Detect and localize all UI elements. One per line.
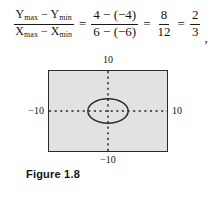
twelve-denominator: 12 [156, 25, 173, 40]
trailing-comma: , [204, 30, 207, 48]
equation-denominator-x-range: Xmax − Xmin [13, 25, 74, 40]
equation-term-substituted-values: 4 − (−4) 6 − (−6) [91, 8, 138, 39]
three-denominator: 3 [190, 25, 201, 40]
graphing-calculator-viewport [48, 70, 168, 152]
figure-1-8: 10 −10 10 −10 Figure 1.8 [0, 52, 221, 199]
x-min-subscript: min [59, 30, 72, 39]
axis-label-x-max: 10 [172, 106, 182, 116]
equation-term-eight-twelfths: 8 12 [156, 8, 173, 39]
equation-term-two-thirds: 2 3 [190, 8, 201, 39]
y-min-subscript: min [59, 13, 72, 22]
axis-label-y-min: −10 [48, 155, 168, 165]
denominator-minus-sign: − [41, 24, 48, 38]
substituted-denominator: 6 − (−6) [91, 25, 138, 40]
plot-svg [49, 71, 167, 151]
axis-label-y-max: 10 [48, 55, 168, 65]
numerator-minus-sign: − [41, 7, 48, 21]
equation-expression: Ymax − Ymin Xmax − Xmin = 4 − (−4) 6 − (… [0, 0, 221, 48]
y-max-variable: Y [16, 7, 25, 21]
equals-sign-3: = [177, 16, 186, 32]
equals-sign-2: = [142, 16, 151, 32]
y-min-variable: Y [51, 7, 60, 21]
equation-numerator-y-range: Ymax − Ymin [14, 8, 74, 24]
eight-numerator: 8 [159, 8, 170, 24]
x-max-variable: X [15, 24, 24, 38]
substituted-numerator: 4 − (−4) [91, 8, 138, 24]
axis-label-x-min: −10 [14, 106, 44, 116]
equation-term-ratio-definition: Ymax − Ymin Xmax − Xmin [13, 8, 74, 39]
figure-caption: Figure 1.8 [26, 168, 80, 180]
equals-sign-1: = [78, 16, 87, 32]
two-numerator: 2 [190, 8, 201, 24]
y-max-subscript: max [24, 13, 38, 22]
x-max-subscript: max [24, 30, 38, 39]
